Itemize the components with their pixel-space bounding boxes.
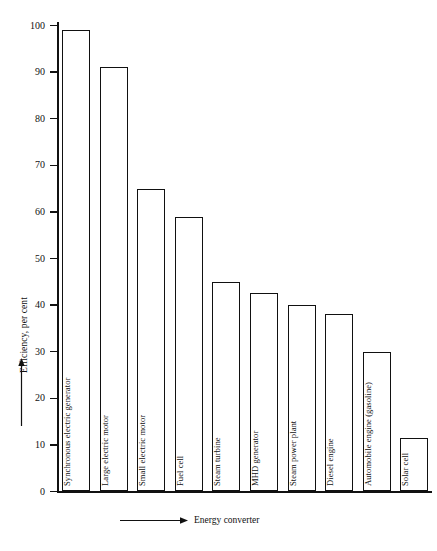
bar-label: Fuel cell	[175, 456, 184, 486]
bar: Steam turbine	[212, 282, 240, 492]
bar-label: Automobile engine (gasoline)	[363, 382, 372, 486]
bar-label: Synchronous electric generator	[63, 378, 72, 486]
bar: Synchronous electric generator	[62, 30, 90, 491]
bar-label: Solar cell	[401, 453, 410, 486]
bar: Diesel engine	[325, 314, 353, 491]
bar: Small electric motor	[137, 189, 165, 492]
bar: MHD generator	[250, 293, 278, 491]
bar: Steam power plant	[288, 305, 316, 491]
bar-series: Synchronous electric generatorLarge elec…	[0, 0, 437, 551]
bar: Large electric motor	[100, 67, 128, 491]
bar-label: Diesel engine	[326, 439, 335, 487]
bar: Solar cell	[400, 438, 428, 492]
bar-label: MHD generator	[251, 431, 260, 486]
bar-label: Large electric motor	[100, 415, 109, 486]
bar-label: Small electric motor	[138, 415, 147, 486]
bar: Fuel cell	[175, 217, 203, 492]
bar-label: Steam turbine	[213, 438, 222, 487]
bar-label: Steam power plant	[288, 421, 297, 486]
bar-chart-figure: Efficiency, per cent 1009080706050403020…	[0, 0, 437, 551]
bar: Automobile engine (gasoline)	[363, 352, 391, 492]
